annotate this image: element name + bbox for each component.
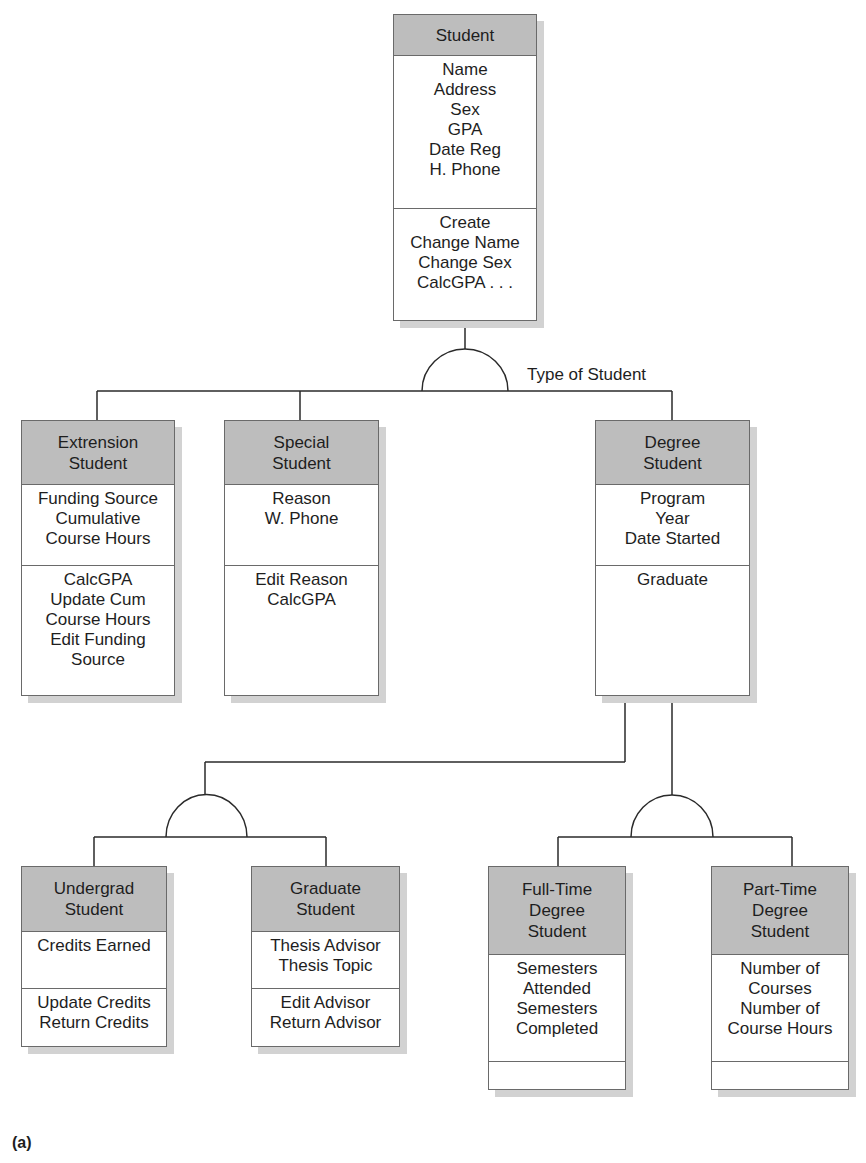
attribute: Sex: [394, 100, 536, 120]
class-undergrad-student[interactable]: Undergrad Student Credits Earned Update …: [21, 866, 167, 1047]
attribute: Year: [596, 509, 749, 529]
class-methods: [712, 1062, 848, 1089]
attribute: Address: [394, 80, 536, 100]
class-student[interactable]: Student Name Address Sex GPA Date Reg H.…: [393, 14, 537, 321]
class-name: Student: [394, 15, 536, 56]
attribute: Semesters: [489, 959, 625, 979]
method: Create: [394, 213, 536, 233]
class-attributes: Funding Source Cumulative Course Hours: [22, 485, 174, 566]
method: Change Name: [394, 233, 536, 253]
method: Return Credits: [22, 1013, 166, 1033]
attribute: GPA: [394, 120, 536, 140]
attribute: Credits Earned: [22, 936, 166, 956]
class-name: Extrension Student: [22, 421, 174, 485]
method: Graduate: [596, 570, 749, 590]
attribute: Courses: [712, 979, 848, 999]
class-name: Graduate Student: [252, 867, 399, 932]
attribute: Date Reg: [394, 140, 536, 160]
attribute: Funding Source: [22, 489, 174, 509]
class-attributes: Credits Earned: [22, 932, 166, 989]
method: CalcGPA: [225, 590, 378, 610]
class-special-student[interactable]: Special Student Reason W. Phone Edit Rea…: [224, 420, 379, 696]
type-of-student-arc: [422, 349, 508, 391]
undergrad-graduate-arc: [166, 794, 247, 837]
method: Source: [22, 650, 174, 670]
class-fulltime-degree-student[interactable]: Full-Time Degree Student Semesters Atten…: [488, 866, 626, 1090]
attribute: Thesis Advisor: [252, 936, 399, 956]
class-attributes: Semesters Attended Semesters Completed: [489, 955, 625, 1062]
class-name: Undergrad Student: [22, 867, 166, 932]
generalization-label: Type of Student: [527, 365, 646, 385]
class-methods: [489, 1062, 625, 1089]
method: Change Sex: [394, 253, 536, 273]
method: Edit Reason: [225, 570, 378, 590]
method: Return Advisor: [252, 1013, 399, 1033]
attribute: Program: [596, 489, 749, 509]
method: Update Cum: [22, 590, 174, 610]
class-degree-student[interactable]: Degree Student Program Year Date Started…: [595, 420, 750, 696]
attribute: Course Hours: [22, 529, 174, 549]
attribute: Number of: [712, 959, 848, 979]
attribute: H. Phone: [394, 160, 536, 180]
method: Course Hours: [22, 610, 174, 630]
class-methods: CalcGPA Update Cum Course Hours Edit Fun…: [22, 566, 174, 695]
class-attributes: Thesis Advisor Thesis Topic: [252, 932, 399, 989]
method: Edit Funding: [22, 630, 174, 650]
attribute: Semesters: [489, 999, 625, 1019]
class-name: Part-Time Degree Student: [712, 867, 848, 955]
class-methods: Edit Reason CalcGPA: [225, 566, 378, 695]
attribute: Cumulative: [22, 509, 174, 529]
class-name: Full-Time Degree Student: [489, 867, 625, 955]
method: Edit Advisor: [252, 993, 399, 1013]
method: Update Credits: [22, 993, 166, 1013]
class-attributes: Program Year Date Started: [596, 485, 749, 566]
class-attributes: Reason W. Phone: [225, 485, 378, 566]
attribute: Number of: [712, 999, 848, 1019]
method: CalcGPA: [22, 570, 174, 590]
attribute: Date Started: [596, 529, 749, 549]
class-graduate-student[interactable]: Graduate Student Thesis Advisor Thesis T…: [251, 866, 400, 1047]
class-name: Degree Student: [596, 421, 749, 485]
class-methods: Edit Advisor Return Advisor: [252, 989, 399, 1046]
figure-caption: (a): [12, 1134, 32, 1152]
class-extension-student[interactable]: Extrension Student Funding Source Cumula…: [21, 420, 175, 696]
attribute: Completed: [489, 1019, 625, 1039]
class-attributes: Name Address Sex GPA Date Reg H. Phone: [394, 56, 536, 209]
attribute: W. Phone: [225, 509, 378, 529]
class-name: Special Student: [225, 421, 378, 485]
attribute: Course Hours: [712, 1019, 848, 1039]
attribute: Name: [394, 60, 536, 80]
class-methods: Update Credits Return Credits: [22, 989, 166, 1046]
attribute: Attended: [489, 979, 625, 999]
class-parttime-degree-student[interactable]: Part-Time Degree Student Number of Cours…: [711, 866, 849, 1090]
fulltime-parttime-arc: [631, 795, 713, 837]
attribute: Reason: [225, 489, 378, 509]
class-methods: Create Change Name Change Sex CalcGPA . …: [394, 209, 536, 320]
attribute: Thesis Topic: [252, 956, 399, 976]
class-methods: Graduate: [596, 566, 749, 695]
class-attributes: Number of Courses Number of Course Hours: [712, 955, 848, 1062]
method: CalcGPA . . .: [394, 273, 536, 293]
